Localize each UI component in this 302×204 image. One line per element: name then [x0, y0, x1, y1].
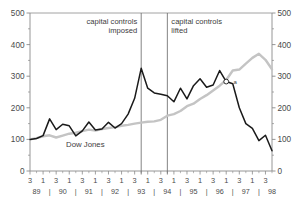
year-separator: |	[75, 187, 77, 196]
y-tick-label-left: 0	[20, 167, 25, 176]
y-tick-label-left: 200	[11, 104, 25, 113]
x-tick-label-year: 94	[163, 187, 171, 196]
x-tick-label-quarter: 3	[54, 176, 58, 185]
year-separator: |	[179, 187, 181, 196]
x-tick-label-quarter: 1	[93, 176, 97, 185]
y-tick-label-left: 500	[11, 9, 25, 18]
x-tick-label-year: 97	[242, 187, 250, 196]
x-tick-label-year: 98	[268, 187, 276, 196]
year-separator: |	[49, 187, 51, 196]
x-tick-label-year: 92	[111, 187, 119, 196]
data-point-marker	[224, 79, 229, 84]
y-tick-label-right: 200	[278, 104, 292, 113]
year-separator: |	[101, 187, 103, 196]
x-tick-label-quarter: 1	[224, 176, 228, 185]
line-chart: 0100200300400500010020030040050031313131…	[0, 0, 302, 204]
x-tick-label-quarter: 1	[41, 176, 45, 185]
x-tick-label-quarter: 3	[211, 176, 215, 185]
y-tick-label-right: 300	[278, 72, 292, 81]
x-tick-label-quarter: 3	[80, 176, 84, 185]
x-tick-label-quarter: 1	[67, 176, 71, 185]
year-separator: |	[232, 187, 234, 196]
y-tick-label-right: 500	[278, 9, 292, 18]
y-tick-label-right: 0	[278, 167, 283, 176]
x-tick-label-quarter: 3	[28, 176, 32, 185]
x-tick-label-quarter: 1	[146, 176, 150, 185]
x-tick-label-year: 89	[33, 187, 41, 196]
x-tick-label-quarter: 3	[159, 176, 163, 185]
x-tick-label-quarter: 3	[263, 176, 267, 185]
annotation-capital-controls-lifted: lifted	[171, 26, 187, 35]
x-tick-label-quarter: 1	[172, 176, 176, 185]
x-tick-label-year: 93	[137, 187, 145, 196]
annotation-capital-controls-lifted: capital controls	[171, 17, 222, 26]
y-tick-label-right: 100	[278, 135, 292, 144]
y-tick-label-left: 100	[11, 135, 25, 144]
annotation-capital-controls-imposed: imposed	[108, 26, 137, 35]
x-tick-label-quarter: 1	[198, 176, 202, 185]
chart-figure: 0100200300400500010020030040050031313131…	[0, 0, 302, 204]
y-tick-label-left: 400	[11, 41, 25, 50]
x-tick-label-quarter: 3	[237, 176, 241, 185]
x-tick-label-quarter: 1	[120, 176, 124, 185]
series-inline-label-dow-jones: Dow Jones	[66, 140, 105, 149]
x-tick-label-quarter: 3	[106, 176, 110, 185]
y-tick-label-left: 300	[11, 72, 25, 81]
year-separator: |	[258, 187, 260, 196]
data-point-marker-label: a	[234, 79, 238, 85]
year-separator: |	[206, 187, 208, 196]
x-tick-label-year: 90	[59, 187, 67, 196]
x-tick-label-quarter: 3	[185, 176, 189, 185]
x-tick-label-year: 95	[190, 187, 198, 196]
year-separator: |	[153, 187, 155, 196]
x-tick-label-year: 96	[216, 187, 224, 196]
y-tick-label-right: 400	[278, 41, 292, 50]
x-tick-label-quarter: 3	[133, 176, 137, 185]
year-separator: |	[127, 187, 129, 196]
annotation-capital-controls-imposed: capital controls	[87, 17, 138, 26]
x-tick-label-year: 91	[85, 187, 93, 196]
x-tick-label-quarter: 1	[250, 176, 254, 185]
